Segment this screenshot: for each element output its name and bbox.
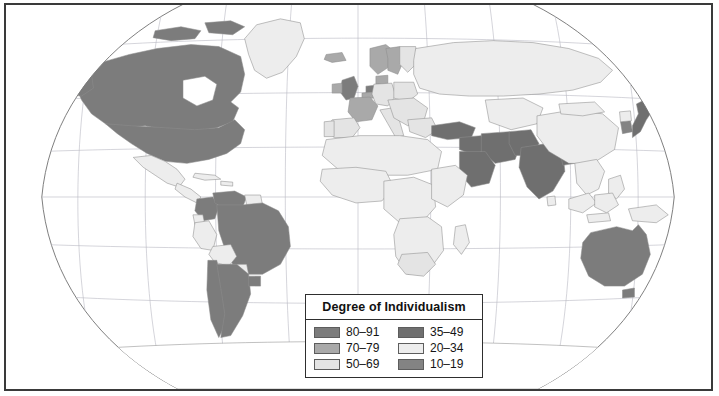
legend-item: 20–34: [398, 341, 476, 355]
legend-label: 50–69: [346, 358, 379, 370]
region-new-zealand-north: [678, 268, 692, 284]
legend-label: 20–34: [430, 342, 463, 354]
legend-column-left: 80–91 70–79 50–69: [314, 325, 392, 371]
region-central-africa: [384, 177, 436, 223]
region-portugal: [324, 121, 334, 137]
map-frame: Degree of Individualism 80–91 70–79 50–6…: [4, 3, 713, 391]
region-ireland: [332, 83, 342, 93]
world-map-figure: Degree of Individualism 80–91 70–79 50–6…: [0, 0, 719, 396]
legend-item: 70–79: [314, 341, 392, 355]
region-uruguay: [249, 276, 261, 286]
map-legend: Degree of Individualism 80–91 70–79 50–6…: [305, 294, 483, 378]
legend-column-right: 35–49 20–34 10–19: [398, 325, 476, 371]
legend-swatch-icon: [398, 343, 424, 354]
legend-label: 70–79: [346, 342, 379, 354]
region-alaska: [56, 68, 94, 96]
legend-label: 10–19: [430, 358, 463, 370]
legend-swatch-icon: [314, 343, 340, 354]
legend-title: Degree of Individualism: [306, 295, 482, 320]
legend-swatch-icon: [398, 359, 424, 370]
legend-label: 80–91: [346, 326, 379, 338]
legend-label: 35–49: [430, 326, 463, 338]
legend-swatch-icon: [398, 327, 424, 338]
region-sri-lanka: [547, 196, 556, 206]
legend-item: 10–19: [398, 357, 476, 371]
region-tasmania: [623, 288, 635, 298]
legend-item: 50–69: [314, 357, 392, 371]
region-denmark: [376, 75, 388, 84]
legend-item: 80–91: [314, 325, 392, 339]
legend-item: 35–49: [398, 325, 476, 339]
region-new-zealand-south: [670, 282, 686, 298]
region-indonesia-java: [587, 213, 611, 223]
region-canada: [76, 45, 245, 132]
region-north-korea: [620, 111, 632, 122]
legend-body: 80–91 70–79 50–69 35–49: [306, 320, 482, 377]
region-hispaniola: [221, 181, 233, 186]
region-south-korea: [621, 121, 633, 134]
legend-swatch-icon: [314, 359, 340, 370]
legend-swatch-icon: [314, 327, 340, 338]
